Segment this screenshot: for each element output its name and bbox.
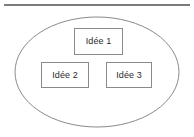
node-idee-3[interactable]: Idée 3 [106, 62, 152, 88]
node-idee-1[interactable]: Idée 1 [74, 28, 123, 55]
node-idee-2-label: Idée 2 [52, 71, 78, 80]
node-idee-3-label: Idée 3 [116, 71, 142, 80]
node-idee-1-label: Idée 1 [86, 37, 112, 46]
diagram-canvas: Idée 1 Idée 2 Idée 3 [0, 0, 194, 137]
ellipse-container [0, 0, 194, 137]
node-idee-2[interactable]: Idée 2 [41, 62, 89, 88]
